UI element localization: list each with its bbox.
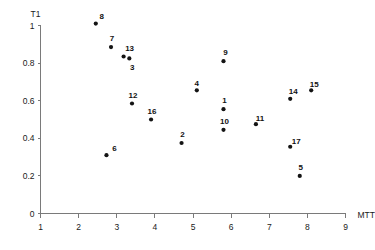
data-point-label: 9 [223,48,228,57]
data-point: 4 [195,79,200,92]
data-point-label: 12 [129,91,138,100]
data-point-marker [288,97,292,101]
data-point-marker [104,153,108,157]
data-point-label: 3 [130,63,135,72]
data-point-marker [149,117,153,121]
data-point: 7 [109,34,115,49]
y-axis-title: T1 [31,9,41,19]
data-point: 6 [104,144,117,157]
data-point-label: 4 [195,79,200,88]
data-point-marker [94,22,98,26]
data-point-marker [179,141,183,145]
data-point-label: 17 [292,137,301,146]
data-point-marker [221,107,225,111]
axis-titles: T1MTT [31,9,375,220]
x-axis-tick-label: 4 [153,222,158,232]
data-point-label: 7 [110,34,115,43]
data-point-marker [109,45,113,49]
x-axis-tick-label: 8 [305,222,310,232]
data-point-label: 11 [256,114,265,123]
data-point: 15 [309,80,319,92]
data-point-label: 8 [100,12,105,21]
data-point-marker [298,174,302,178]
data-point: 10 [220,117,229,132]
data-point: 2 [179,130,185,145]
data-point: 11 [254,114,265,126]
data-point: 3 [127,56,135,72]
data-point-marker [195,88,199,92]
data-point-marker [130,101,134,105]
data-point-marker [221,59,225,63]
data-point: 1 [221,96,227,111]
data-points-layer: 8713312166249110111415175 [94,12,320,178]
data-point: 17 [288,137,301,149]
data-point-marker [221,128,225,132]
data-point: 12 [129,91,138,106]
y-axis-tick-label: 1 [30,21,35,31]
x-axis-tick-label: 3 [114,222,119,232]
y-axis-tick-label: 0.8 [23,58,35,68]
data-point-label: 10 [220,117,229,126]
x-axis: 123456789 [38,214,348,232]
y-axis-tick-label: 0 [30,209,35,219]
data-point: 9 [221,48,228,63]
data-point: 14 [288,87,298,101]
data-point-label: 13 [125,44,134,53]
data-point-marker [122,54,126,58]
x-axis-tick-label: 2 [76,222,81,232]
x-axis-tick-label: 7 [267,222,272,232]
data-point: 5 [298,163,304,178]
x-axis-tick-label: 5 [191,222,196,232]
plot-canvas: 00.20.40.60.81 123456789 T1MTT 871331216… [0,0,375,250]
data-point-marker [127,56,131,60]
data-point-label: 16 [148,107,157,116]
x-axis-tick-label: 9 [343,222,348,232]
data-point: 16 [148,107,157,122]
data-point-label: 5 [299,163,304,172]
y-axis-tick-label: 0.4 [23,133,35,143]
x-axis-title: MTT [358,210,375,220]
y-axis-tick-label: 0.6 [23,96,35,106]
data-point-label: 14 [289,87,298,96]
y-axis: 00.20.40.60.81 [23,21,41,219]
data-point-label: 1 [222,96,227,105]
data-point-label: 15 [310,80,319,89]
data-point: 13 [122,44,135,59]
x-axis-tick-label: 1 [38,222,43,232]
data-point-label: 6 [112,144,117,153]
data-point-label: 2 [180,130,185,139]
scatter-plot-figure: 00.20.40.60.81 123456789 T1MTT 871331216… [0,0,375,250]
y-axis-tick-label: 0.2 [23,171,35,181]
x-axis-tick-label: 6 [229,222,234,232]
data-point: 8 [94,12,105,26]
